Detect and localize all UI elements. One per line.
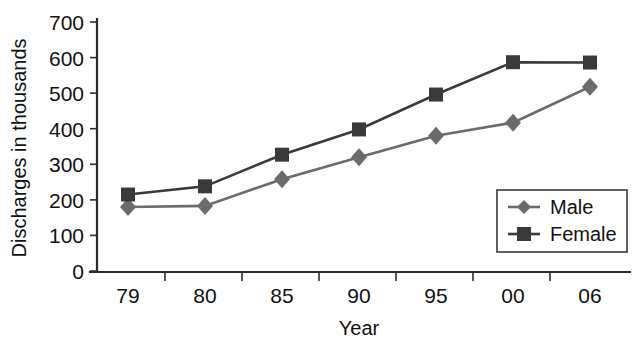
y-axis-title: Discharges in thousands bbox=[8, 38, 30, 257]
data-point-diamond[interactable] bbox=[197, 197, 213, 215]
y-tick-label: 200 bbox=[49, 189, 84, 212]
y-tick-label: 0 bbox=[72, 260, 84, 283]
data-point-diamond[interactable] bbox=[505, 114, 521, 132]
y-tick-label: 100 bbox=[49, 224, 84, 247]
square-icon bbox=[517, 227, 531, 241]
data-point-square[interactable] bbox=[506, 55, 520, 69]
y-tick-label: 700 bbox=[49, 11, 84, 34]
data-point-square[interactable] bbox=[583, 56, 597, 70]
series-female bbox=[121, 55, 597, 201]
data-point-square[interactable] bbox=[121, 188, 135, 202]
data-point-diamond[interactable] bbox=[351, 148, 367, 166]
x-tick-label: 90 bbox=[347, 284, 370, 307]
data-point-diamond[interactable] bbox=[274, 170, 290, 188]
x-axis-title: Year bbox=[339, 317, 380, 339]
chart-legend: Male Female bbox=[497, 190, 627, 252]
chart-page: Discharges in thousands 700 600 500 400 … bbox=[0, 0, 634, 344]
y-tick-label: 400 bbox=[49, 118, 84, 141]
data-point-square[interactable] bbox=[429, 88, 443, 102]
x-tick-label: 79 bbox=[116, 284, 139, 307]
y-tick-label: 600 bbox=[49, 47, 84, 70]
data-point-diamond[interactable] bbox=[428, 127, 444, 145]
y-tick-label: 300 bbox=[49, 153, 84, 176]
data-point-square[interactable] bbox=[275, 148, 289, 162]
legend-label-male: Male bbox=[550, 196, 593, 218]
x-axis-ticks: 79 80 85 90 95 00 06 bbox=[116, 272, 601, 307]
y-tick-label: 500 bbox=[49, 82, 84, 105]
data-point-diamond[interactable] bbox=[582, 78, 598, 96]
series-line-male bbox=[128, 87, 590, 207]
y-axis-ticks: 700 600 500 400 300 200 100 0 bbox=[49, 11, 97, 283]
x-tick-label: 80 bbox=[193, 284, 216, 307]
data-point-square[interactable] bbox=[352, 122, 366, 136]
legend-label-female: Female bbox=[550, 223, 617, 245]
x-tick-label: 95 bbox=[424, 284, 447, 307]
x-tick-label: 85 bbox=[270, 284, 293, 307]
data-point-square[interactable] bbox=[198, 179, 212, 193]
x-tick-label: 06 bbox=[578, 284, 601, 307]
line-chart: Discharges in thousands 700 600 500 400 … bbox=[0, 0, 634, 344]
x-tick-label: 00 bbox=[501, 284, 524, 307]
